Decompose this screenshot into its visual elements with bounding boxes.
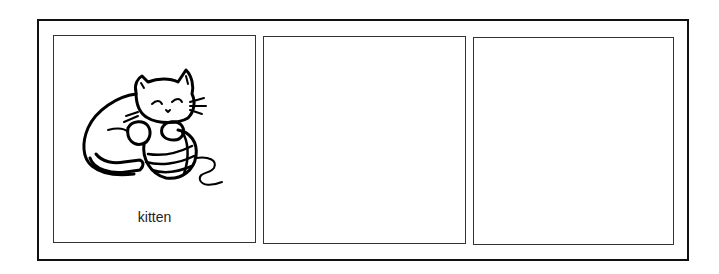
- picture-card-kitten: kitten: [53, 35, 256, 243]
- kitten-playing-with-yarn-icon: [78, 66, 230, 194]
- picture-card-blank-2: [473, 37, 674, 245]
- picture-card-blank-1: [263, 36, 466, 244]
- card-label: kitten: [54, 209, 255, 225]
